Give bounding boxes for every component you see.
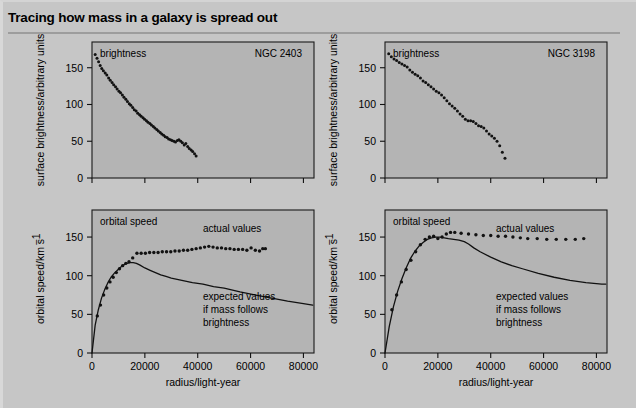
x-tick-label-ngc3198-speed-3: 60000 [529,360,558,372]
data-point [445,232,448,235]
data-point [135,252,138,255]
data-point [264,247,267,250]
data-point [245,248,248,251]
actual-values-label-ngc2403-speed: actual values [203,223,261,234]
data-point [427,83,430,86]
data-point [451,104,454,107]
data-point [408,68,411,71]
chart-ngc2403-speed: 050100150020000400006000080000radius/lig… [30,210,318,388]
data-point [249,246,252,249]
figure-caption [0,399,636,408]
y-axis-title-text-ngc3198-speed: orbital speed/km s [327,239,339,324]
galaxy-name-ngc2403-brightness: NGC 2403 [255,48,303,59]
data-point [241,248,244,251]
data-point [498,144,501,147]
data-point [526,237,529,240]
data-point [199,246,202,249]
data-point [459,113,462,116]
data-point [503,157,506,160]
data-point [186,248,189,251]
plot-tag-ngc3198-brightness: brightness [393,48,439,59]
y-axis-title-ngc3198-brightness: surface brightness/arbitrary units [327,34,339,186]
data-point [429,85,432,88]
y-tick-label-ngc2403-speed-0: 0 [77,347,83,359]
data-point [443,96,446,99]
data-point [403,64,406,67]
data-point [184,142,187,145]
y-axis-title-ngc2403-speed: orbital speed/km s−1 [30,233,46,324]
data-point [474,122,477,125]
charts-svg: 050100150surface brightness/arbitrary un… [0,34,636,396]
data-point [488,132,491,135]
data-point [161,250,164,253]
data-point [411,71,414,74]
data-point [131,256,134,259]
data-point [501,151,504,154]
chart-ngc3198-speed: 050100150020000400006000080000radius/lig… [323,210,611,388]
plot-tag-ngc2403-speed: orbital speed [100,216,157,227]
y-tick-label-ngc3198-speed-2: 100 [358,270,376,282]
x-axis-title-ngc2403-speed: radius/light-year [166,376,241,388]
data-point [564,238,567,241]
y-axis-title-exponent-ngc3198-speed: −1 [323,233,335,245]
data-point [228,247,231,250]
plot-area-ngc3198-brightness [385,42,607,178]
data-point [582,237,585,240]
data-point [435,90,438,93]
data-point [258,249,261,252]
data-point [173,249,176,252]
data-point [195,154,198,157]
actual-values-label-ngc3198-speed: actual values [496,223,554,234]
y-axis-title-text-ngc2403-speed: orbital speed/km s [34,239,46,324]
x-tick-label-ngc3198-speed-2: 40000 [476,360,505,372]
page-title: Tracing how mass in a galaxy is spread o… [8,10,624,25]
data-point [207,245,210,248]
data-point [536,237,539,240]
data-point [437,91,440,94]
data-point [390,55,393,58]
y-tick-label-ngc3198-brightness-1: 50 [364,135,376,147]
x-tick-label-ngc2403-speed-0: 0 [89,360,95,372]
plot-tag-ngc3198-speed: orbital speed [393,216,450,227]
data-point [254,248,257,251]
data-point [419,77,422,80]
data-point [490,135,493,138]
data-point [152,251,155,254]
data-point [406,65,409,68]
y-tick-label-ngc3198-brightness-0: 0 [370,172,376,184]
data-point [144,252,147,255]
expected-values-label-2-ngc3198-speed: if mass follows [496,304,561,315]
data-point [148,251,151,254]
x-tick-label-ngc2403-speed-3: 60000 [236,360,265,372]
data-point [387,52,390,55]
chart-panels: 050100150surface brightness/arbitrary un… [0,34,636,396]
data-point [169,250,172,253]
data-point [519,236,522,239]
x-tick-label-ngc3198-speed-4: 80000 [582,360,611,372]
data-point [480,125,483,128]
x-tick-label-ngc2403-speed-2: 40000 [183,360,212,372]
data-point [453,107,456,110]
data-point [178,249,181,252]
data-point [432,88,435,91]
data-point [477,124,480,127]
data-point [493,137,496,140]
data-point [400,63,403,66]
y-tick-label-ngc2403-brightness-1: 50 [71,135,83,147]
data-point [190,248,193,251]
data-point [398,61,401,64]
data-point [461,115,464,118]
x-tick-label-ngc2403-speed-1: 20000 [130,360,159,372]
x-tick-label-ngc3198-speed-0: 0 [382,360,388,372]
y-tick-label-ngc3198-speed-0: 0 [370,347,376,359]
chart-ngc2403-brightness: 050100150surface brightness/arbitrary un… [34,34,314,186]
y-axis-title-ngc3198-speed: orbital speed/km s−1 [323,233,339,324]
data-point [467,232,470,235]
expected-values-label-3-ngc2403-speed: brightness [203,317,249,328]
data-point [414,73,417,76]
data-point [482,127,485,130]
data-point [94,53,97,56]
y-tick-label-ngc2403-speed-1: 50 [71,308,83,320]
data-point [232,248,235,251]
data-point [574,238,577,241]
